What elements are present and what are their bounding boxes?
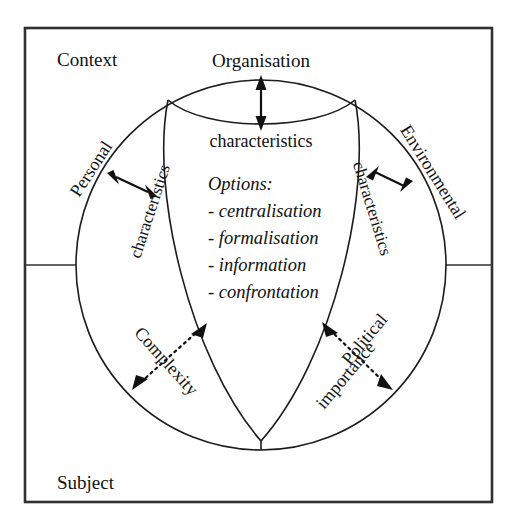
options-heading: Options: xyxy=(208,174,273,194)
environmental-title: Environmental xyxy=(396,121,470,222)
figure-canvas: Context Subject Organisation characteris… xyxy=(0,0,523,532)
options-item-2: - information xyxy=(208,255,306,275)
options-item-3: - confrontation xyxy=(208,282,319,302)
options-item-1: - formalisation xyxy=(208,228,319,248)
context-label: Context xyxy=(57,49,118,70)
subject-label: Subject xyxy=(57,472,115,493)
organisation-subtitle: characteristics xyxy=(210,131,313,151)
organisation-title: Organisation xyxy=(212,50,310,71)
options-item-0: - centralisation xyxy=(208,201,322,221)
personal-subtitle: characteristics xyxy=(126,162,174,260)
diagram-svg: Context Subject Organisation characteris… xyxy=(0,0,523,532)
organisation-arrow xyxy=(256,75,267,131)
environmental-subtitle: characteristics xyxy=(349,159,396,258)
complexity-label: Complexity xyxy=(131,323,203,400)
